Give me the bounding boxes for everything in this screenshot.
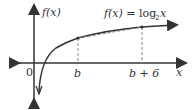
point-b xyxy=(76,36,79,39)
secant-line xyxy=(78,27,142,38)
x-axis-label: x xyxy=(176,66,183,79)
tick-label-b6: b + 6 xyxy=(129,67,159,80)
function-log: log xyxy=(139,7,156,20)
function-base: 2 xyxy=(155,14,159,22)
function-arg: x xyxy=(160,7,167,20)
tick-label-b: b xyxy=(74,67,81,80)
point-b6 xyxy=(140,25,143,28)
function-lhs: f(x) = xyxy=(103,7,136,20)
origin-label: 0 xyxy=(26,66,33,79)
log-curve xyxy=(39,25,176,92)
log-graph: f(x) f(x) = log 2 x 0 b b + 6 x xyxy=(0,0,196,110)
y-axis-label: f(x) xyxy=(41,6,61,19)
